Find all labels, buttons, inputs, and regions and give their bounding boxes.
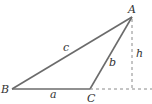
- side-b-label: b: [109, 56, 116, 69]
- side-c-label: c: [63, 41, 69, 54]
- vertex-b-label: B: [0, 83, 9, 96]
- side-c-line: [12, 17, 132, 89]
- side-b-line: [90, 17, 132, 89]
- vertex-a-label: A: [127, 3, 136, 16]
- vertex-c-label: C: [87, 92, 96, 104]
- altitude-h-label: h: [136, 47, 143, 60]
- side-a-label: a: [50, 88, 57, 101]
- triangle-diagram: A B C a b c h: [0, 0, 152, 104]
